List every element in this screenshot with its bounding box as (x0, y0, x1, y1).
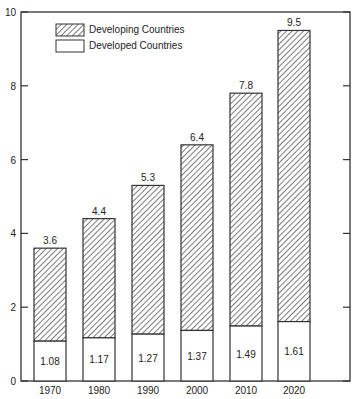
x-tick-label: 1990 (137, 385, 160, 396)
developed-value-label: 1.61 (284, 346, 304, 357)
y-tick-label: 4 (10, 228, 16, 239)
y-tick-label: 6 (10, 155, 16, 166)
total-label: 5.3 (141, 172, 155, 183)
bar-developing (230, 93, 262, 326)
legend: Developing Countries Developed Countries (56, 24, 185, 52)
developed-value-label: 1.49 (236, 349, 256, 360)
bar-developing (181, 145, 213, 331)
total-label: 6.4 (190, 132, 204, 143)
legend-item-developed: Developed Countries (56, 40, 182, 52)
stacked-bar-chart: 0246810 3.61.084.41.175.31.276.41.377.81… (0, 0, 359, 399)
bar-group-2000: 6.41.37 (181, 132, 213, 381)
y-tick-label: 2 (10, 302, 16, 313)
bar-group-1990: 5.31.27 (132, 172, 164, 381)
x-tick-label: 2000 (186, 385, 209, 396)
x-tick-label: 1970 (39, 385, 62, 396)
developed-value-label: 1.37 (187, 351, 207, 362)
legend-label-developing: Developing Countries (89, 24, 185, 35)
developed-value-label: 1.17 (89, 354, 109, 365)
developed-value-label: 1.27 (138, 353, 158, 364)
x-tick-label: 2010 (235, 385, 258, 396)
y-tick-label: 0 (10, 376, 16, 387)
bar-group-2010: 7.81.49 (230, 80, 262, 381)
bar-group-1980: 4.41.17 (83, 206, 115, 381)
plain-swatch-icon (56, 40, 84, 52)
developed-value-label: 1.08 (40, 356, 60, 367)
legend-label-developed: Developed Countries (89, 40, 182, 51)
total-label: 7.8 (239, 80, 253, 91)
bar-group-2020: 9.51.61 (278, 17, 310, 381)
x-tick-label: 2020 (283, 385, 306, 396)
total-label: 4.4 (92, 206, 106, 217)
bar-developing (278, 30, 310, 321)
x-tick-label: 1980 (88, 385, 111, 396)
bar-developing (83, 219, 115, 338)
y-tick-label: 10 (5, 7, 17, 18)
bars: 3.61.084.41.175.31.276.41.377.81.499.51.… (34, 17, 310, 381)
bar-developing (34, 248, 66, 341)
bar-developing (132, 185, 164, 334)
hatched-swatch-icon (56, 24, 84, 36)
y-tick-label: 8 (10, 81, 16, 92)
total-label: 9.5 (287, 17, 301, 28)
total-label: 3.6 (43, 235, 57, 246)
legend-item-developing: Developing Countries (56, 24, 185, 36)
bar-group-1970: 3.61.08 (34, 235, 66, 381)
x-axis: 197019801990200020102020 (39, 385, 306, 396)
